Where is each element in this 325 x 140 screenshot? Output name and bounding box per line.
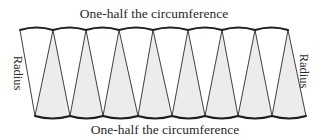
left-radius-label: Radius: [11, 56, 25, 91]
right-radius-label: Radius: [297, 54, 311, 89]
circle-sectors-rearranged-diagram: One-half the circumference One-half the …: [0, 0, 325, 140]
bottom-label: One-half the circumference: [91, 122, 239, 137]
top-label: One-half the circumference: [80, 6, 228, 21]
